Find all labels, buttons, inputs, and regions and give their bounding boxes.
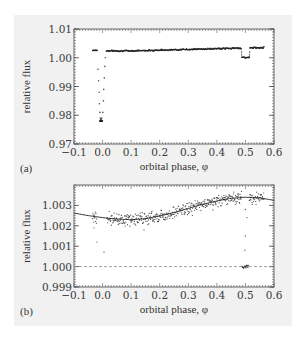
y-tick-label: 1.002 <box>42 220 72 232</box>
y-tick-label: 1.00 <box>49 52 72 64</box>
x-tick-label: 0.6 <box>266 289 283 301</box>
panel-a: −0.10.00.10.20.30.40.50.60.970.980.991.0… <box>20 23 283 175</box>
y-axis-label: relative flux <box>20 59 32 113</box>
x-tick-label: 0.5 <box>237 289 254 301</box>
x-tick-label: 0.0 <box>94 289 111 301</box>
x-tick-label: 0.4 <box>209 289 226 301</box>
plot-area <box>74 185 274 287</box>
x-tick-label: 0.6 <box>266 146 283 158</box>
x-tick-label: 0.1 <box>123 146 140 158</box>
x-tick-label: 0.2 <box>151 289 168 301</box>
x-axis-label: orbital phase, φ <box>140 303 208 315</box>
y-tick-label: 0.97 <box>49 138 72 150</box>
x-tick-label: 0.3 <box>180 146 197 158</box>
y-tick-label: 1.003 <box>42 199 72 211</box>
y-tick-label: 1.01 <box>49 23 72 35</box>
panel-label: (a) <box>20 162 33 175</box>
x-tick-label: 0.3 <box>180 289 197 301</box>
x-axis-label: orbital phase, φ <box>140 160 208 172</box>
panel-label: (b) <box>20 305 33 318</box>
x-tick-label: 0.4 <box>209 146 226 158</box>
panel-b: −0.10.00.10.20.30.40.50.60.9991.0001.001… <box>20 185 283 318</box>
y-tick-label: 0.99 <box>49 81 72 93</box>
x-tick-label: 0.0 <box>94 146 111 158</box>
y-axis-label: relative flux <box>20 209 32 263</box>
chart-svg: −0.10.00.10.20.30.40.50.60.970.980.991.0… <box>0 0 301 342</box>
plot-area <box>74 29 274 144</box>
y-tick-label: 0.999 <box>42 281 72 293</box>
x-tick-label: 0.1 <box>123 289 140 301</box>
x-tick-label: 0.2 <box>151 146 168 158</box>
y-tick-label: 0.98 <box>49 109 72 121</box>
y-tick-label: 1.001 <box>42 240 72 252</box>
x-tick-label: 0.5 <box>237 146 254 158</box>
y-tick-label: 1.000 <box>42 261 72 273</box>
